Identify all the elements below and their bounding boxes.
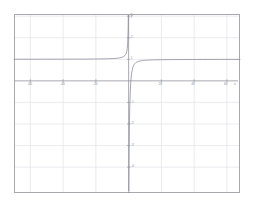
curve-series [14,15,240,193]
y-axis-label: y [131,15,133,19]
x-tick-label: 40 [191,83,195,86]
y-tick-label: -4 [131,165,134,168]
y-tick-label: -3 [131,144,134,147]
x-tick-label: 20 [158,83,162,86]
axis-lines [15,15,238,191]
y-tick-label: -1 [131,101,134,104]
y-tick-label: 1 [131,57,133,60]
x-axis-label: x [234,83,236,87]
chart-figure: -60-40-20204060-4-3-2-1123 x y [0,0,254,207]
gridlines [15,15,239,192]
x-tick-label: -40 [60,83,65,86]
x-tick-label: 60 [224,83,228,86]
y-tick-label: 2 [131,36,133,39]
x-tick-label: -60 [27,83,32,86]
y-tick-label: -2 [131,122,134,125]
x-tick-label: -20 [93,83,98,86]
chart-canvas [0,0,254,207]
